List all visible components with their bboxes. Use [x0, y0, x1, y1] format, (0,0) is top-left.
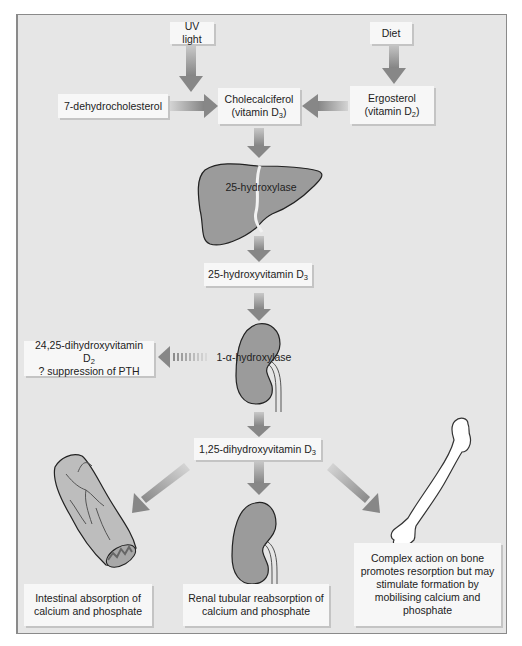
- intermediate-subscript: 3: [304, 273, 308, 282]
- intermediate-text: 25-hydroxyvitamin D: [208, 268, 304, 280]
- arrow-liver-down: [247, 236, 271, 262]
- effect-intestine-line1: Intestinal absorption of: [35, 592, 141, 605]
- uv-light-label: UV light: [174, 20, 210, 46]
- ergosterol-box: Ergosterol (vitamin D2): [350, 86, 434, 124]
- intestine-icon: [54, 455, 139, 572]
- active-label: 1,25-dihydroxyvitamin D3: [199, 443, 316, 456]
- kidney-effect-icon: [232, 502, 277, 594]
- active-text: 1,25-dihydroxyvitamin D: [199, 443, 312, 455]
- arrow-precursor-right: [170, 94, 218, 118]
- ergosterol-line2-suffix: ): [416, 105, 420, 117]
- active-box: 1,25-dihydroxyvitamin D3: [194, 438, 321, 460]
- cholecalciferol-line2-suffix: ): [283, 106, 287, 118]
- liver-icon: [198, 164, 322, 245]
- effect-intestine-line2: calcium and phosphate: [34, 605, 142, 618]
- side-pathway-box: 24,25-dihydroxyvitamin D2 ? suppression …: [24, 341, 154, 376]
- effect-bone-line5: phosphate: [403, 604, 452, 617]
- effect-renal-line1: Renal tubular reabsorption of: [188, 592, 323, 605]
- uv-light-box: UV light: [170, 22, 214, 44]
- arrow-ergosterol-left: [302, 94, 348, 118]
- effect-bone-line3: stimulate formation by: [376, 578, 479, 591]
- cholecalciferol-box: Cholecalciferol (vitamin D3): [218, 88, 300, 124]
- precursor-label: 7-dehydrocholesterol: [64, 100, 162, 113]
- active-subscript: 3: [312, 448, 316, 457]
- ergosterol-line2-text: (vitamin D: [365, 105, 412, 117]
- diet-box: Diet: [370, 22, 412, 44]
- liver-enzyme-label: 25-hydroxylase: [218, 181, 304, 194]
- kidney-icon: [236, 324, 281, 412]
- effect-bone-line4: mobilising calcium and: [375, 591, 481, 604]
- arrow-to-bone: [327, 463, 380, 513]
- ergosterol-line2: (vitamin D2): [365, 105, 420, 118]
- arrow-uv-down: [179, 46, 203, 92]
- cholecalciferol-line2: (vitamin D3): [232, 106, 287, 119]
- effect-renal-box: Renal tubular reabsorption of calcium an…: [183, 584, 329, 626]
- side-pathway-line1: 24,25-dihydroxyvitamin D2: [28, 339, 150, 365]
- cholecalciferol-line2-text: (vitamin D: [232, 106, 279, 118]
- intermediate-label: 25-hydroxyvitamin D3: [208, 268, 308, 281]
- arrow-side-pathway: [158, 346, 207, 368]
- effect-renal-line2: calcium and phosphate: [202, 605, 310, 618]
- side-pathway-line2: ? suppression of PTH: [39, 365, 140, 378]
- arrow-to-intestine: [132, 463, 190, 513]
- cholecalciferol-line1: Cholecalciferol: [225, 93, 294, 106]
- effect-intestine-box: Intestinal absorption of calcium and pho…: [24, 584, 152, 626]
- arrow-to-active: [247, 412, 271, 437]
- precursor-box: 7-dehydrocholesterol: [58, 94, 168, 118]
- effect-bone-box: Complex action on bone promotes resorpti…: [354, 543, 501, 626]
- arrow-to-liver: [247, 128, 271, 158]
- effect-bone-line1: Complex action on bone: [371, 552, 484, 565]
- diet-label: Diet: [382, 27, 401, 40]
- arrow-to-kidney: [247, 293, 271, 321]
- effect-bone-line2: promotes resorption but may: [361, 565, 495, 578]
- intermediate-box: 25-hydroxyvitamin D3: [204, 263, 312, 286]
- arrow-to-renal: [247, 461, 271, 495]
- kidney-enzyme-label: 1-α-hydroxylase: [214, 351, 294, 364]
- side-pathway-text: 24,25-dihydroxyvitamin D: [35, 339, 143, 364]
- arrow-diet-down: [382, 44, 406, 84]
- ergosterol-line1: Ergosterol: [368, 92, 416, 105]
- bone-icon: [391, 418, 470, 547]
